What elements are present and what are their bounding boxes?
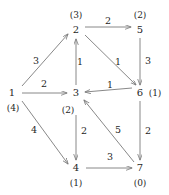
node-label-2: 2 [73,25,79,35]
node-distance-4: (1) [70,179,83,188]
edge-weight-3-to-4: 2 [81,126,87,136]
edge-weight-6-to-3: 1 [107,80,113,90]
graph-edge-layer [0,0,169,195]
edge-2-to-6 [85,35,136,85]
node-distance-1: (4) [7,104,20,113]
node-label-1: 1 [9,88,15,98]
edge-weight-5-to-6: 3 [145,56,151,66]
edge-weight-2-to-6: 1 [115,57,121,67]
node-distance-7: (0) [134,179,147,188]
edge-weight-3-to-2: 1 [77,57,83,67]
node-distance-3: (2) [62,106,75,115]
node-distance-6: (1) [149,89,162,98]
node-label-3: 3 [73,88,79,98]
edge-weight-1-to-3: 2 [41,79,47,89]
edge-weight-6-to-7: 2 [145,126,151,136]
node-label-5: 5 [137,25,143,35]
node-distance-5: (2) [134,11,147,20]
node-distance-2: (3) [70,11,83,20]
edge-weight-2-to-5: 2 [105,16,111,26]
edge-weight-7-to-3: 5 [115,125,121,135]
node-label-6: 6 [137,88,143,98]
node-label-4: 4 [73,163,79,173]
weighted-graph-figure: 1 2 3 4 5 6 7 (4) (3) (2) (1) (2) (1) (0… [0,0,169,195]
edge-weight-1-to-4: 4 [31,125,37,135]
node-label-7: 7 [137,163,143,173]
edge-weight-1-to-2: 3 [33,56,39,66]
edge-weight-4-to-7: 3 [107,152,113,162]
